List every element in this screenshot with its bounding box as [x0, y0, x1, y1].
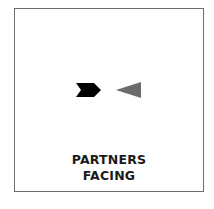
black-chevron-arrow-right-icon	[76, 83, 101, 97]
caption-line-1: PARTNERS	[15, 152, 203, 168]
grey-triangle-left-icon	[116, 82, 141, 98]
diagram-frame: PARTNERS FACING	[14, 8, 204, 192]
caption-line-2: FACING	[15, 168, 203, 184]
